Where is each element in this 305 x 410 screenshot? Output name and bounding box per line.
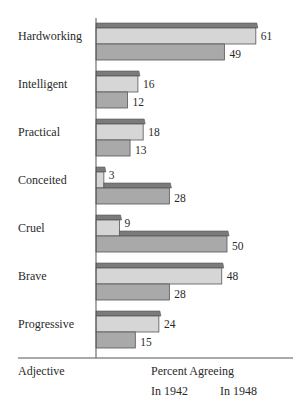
value-label-1948: 15 xyxy=(140,335,152,349)
bar-cap-1942 xyxy=(96,71,140,76)
bar-1948 xyxy=(96,140,130,156)
category-label: Progressive xyxy=(18,317,74,331)
bar-cap-1942 xyxy=(96,311,161,316)
value-label-1948: 28 xyxy=(174,191,186,205)
value-label-1948: 50 xyxy=(232,239,244,253)
category-label: Intelligent xyxy=(18,77,67,91)
bar-1948 xyxy=(96,332,135,348)
value-label-1942: 18 xyxy=(148,125,160,139)
bar-1948 xyxy=(96,236,227,252)
bar-cap-1948 xyxy=(120,231,229,236)
value-label-1948: 12 xyxy=(132,95,144,109)
bar-cap-1942 xyxy=(96,23,258,28)
bar-1948 xyxy=(96,44,224,60)
category-label: Hardworking xyxy=(18,29,82,43)
bar-1948 xyxy=(96,92,127,108)
category-label: Cruel xyxy=(18,221,45,235)
bar-1942 xyxy=(96,28,256,44)
bar-1942 xyxy=(96,220,120,236)
value-label-1942: 24 xyxy=(164,317,176,331)
x-axis-label: Percent Agreeing xyxy=(151,364,234,378)
chart-bars-layer xyxy=(0,0,305,410)
value-label-1942: 16 xyxy=(143,77,155,91)
bar-cap-1942 xyxy=(96,119,145,124)
bar-cap-1942 xyxy=(96,215,122,220)
value-label-1942: 61 xyxy=(261,29,273,43)
bar-cap-1942 xyxy=(96,167,106,172)
bar-1942 xyxy=(96,316,159,332)
legend-1942: In 1942 xyxy=(151,384,188,398)
bar-chart: HardworkingIntelligentPracticalConceited… xyxy=(0,0,305,410)
value-label-1948: 13 xyxy=(135,143,147,157)
bar-1948 xyxy=(96,188,169,204)
legend-1948: In 1948 xyxy=(220,384,257,398)
value-label-1942: 48 xyxy=(227,269,239,283)
bar-1942 xyxy=(96,172,104,188)
y-axis-label: Adjective xyxy=(18,364,65,378)
bar-1942 xyxy=(96,124,143,140)
bar-cap-1942 xyxy=(96,263,224,268)
category-label: Conceited xyxy=(18,173,67,187)
value-label-1948: 49 xyxy=(229,47,241,61)
value-label-1942: 3 xyxy=(109,168,115,182)
bar-1942 xyxy=(96,268,222,284)
category-label: Practical xyxy=(18,125,60,139)
value-label-1948: 28 xyxy=(174,287,186,301)
bar-1942 xyxy=(96,76,138,92)
value-label-1942: 9 xyxy=(125,216,131,230)
bar-cap-1948 xyxy=(104,183,172,188)
bar-1948 xyxy=(96,284,169,300)
category-label: Brave xyxy=(18,269,47,283)
